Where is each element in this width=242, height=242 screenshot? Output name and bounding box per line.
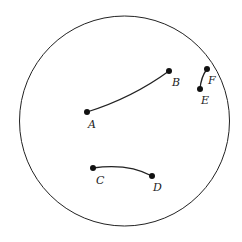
point-a	[84, 109, 90, 115]
label-a: A	[87, 118, 96, 131]
label-e: E	[200, 94, 209, 107]
label-f: F	[207, 74, 216, 87]
point-b	[166, 68, 172, 74]
points-group	[84, 66, 210, 179]
arc-ef	[200, 69, 207, 89]
arcs-group	[87, 69, 207, 176]
label-c: C	[96, 174, 105, 187]
label-b: B	[171, 76, 180, 89]
point-c	[90, 165, 96, 171]
boundary-circle	[20, 16, 230, 226]
label-d: D	[152, 181, 162, 194]
point-d	[149, 173, 155, 179]
disk-diagram: ABCDEF	[0, 0, 242, 242]
arc-ab	[87, 71, 169, 112]
point-e	[197, 86, 203, 92]
point-f	[204, 66, 210, 72]
